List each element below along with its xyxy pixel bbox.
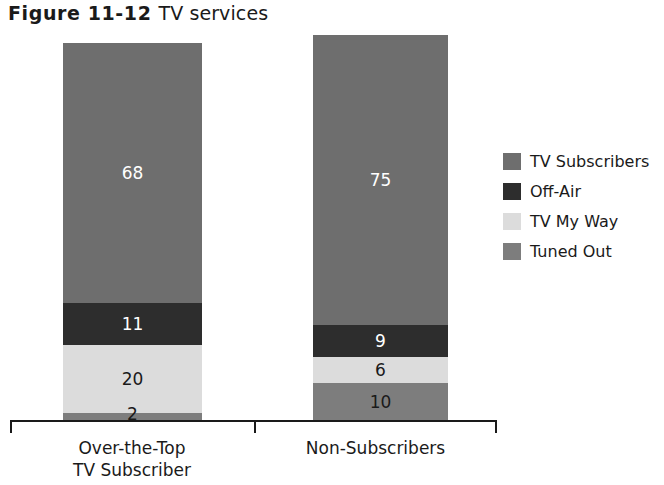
x-axis-label-line-2: TV Subscriber [10, 459, 254, 481]
bar-segment-tv-my-way[interactable]: 20 [63, 345, 202, 413]
bar-over-the-top-tv-subscriber[interactable]: 68 11 20 2 [63, 43, 202, 421]
bar-segment-off-air[interactable]: 9 [313, 325, 448, 357]
x-axis-tick-middle [254, 420, 256, 433]
bar-segment-tv-subscribers[interactable]: 75 [313, 35, 448, 325]
x-axis-label-line-1: Non-Subscribers [254, 437, 497, 459]
bar-value-off-air: 11 [63, 316, 202, 333]
legend-label: TV Subscribers [530, 152, 649, 171]
bar-value-tuned-out: 10 [313, 394, 448, 411]
legend-label: Off-Air [530, 182, 581, 201]
x-axis-label-non-subscribers: Non-Subscribers [254, 437, 497, 459]
legend-item-off-air[interactable]: Off-Air [503, 176, 649, 206]
bar-value-tv-my-way: 20 [63, 371, 202, 388]
legend-swatch-icon [503, 213, 521, 230]
bar-value-tv-subscribers: 75 [313, 172, 448, 189]
bar-segment-off-air[interactable]: 11 [63, 303, 202, 345]
bar-value-off-air: 9 [313, 333, 448, 350]
stacked-bar-chart: 68 11 20 2 75 9 6 10 Over-the [0, 0, 664, 485]
x-axis [10, 420, 497, 421]
legend-label: TV My Way [530, 212, 618, 231]
bar-segment-tv-my-way[interactable]: 6 [313, 357, 448, 383]
bar-value-tv-subscribers: 68 [63, 165, 202, 182]
legend-item-tv-my-way[interactable]: TV My Way [503, 206, 649, 236]
bar-segment-tuned-out[interactable]: 10 [313, 383, 448, 421]
legend-item-tuned-out[interactable]: Tuned Out [503, 236, 649, 266]
bar-segment-tv-subscribers[interactable]: 68 [63, 43, 202, 303]
legend-swatch-icon [503, 243, 521, 260]
legend-item-tv-subscribers[interactable]: TV Subscribers [503, 146, 649, 176]
x-axis-tick-right [495, 420, 497, 433]
legend-swatch-icon [503, 183, 521, 200]
bar-non-subscribers[interactable]: 75 9 6 10 [313, 35, 448, 421]
x-axis-tick-left [10, 420, 12, 433]
x-axis-label-line-1: Over-the-Top [10, 437, 254, 459]
legend-label: Tuned Out [530, 242, 612, 261]
chart-legend: TV Subscribers Off-Air TV My Way Tuned O… [503, 146, 649, 266]
x-axis-label-over-the-top-tv-subscriber: Over-the-Top TV Subscriber [10, 437, 254, 481]
bar-value-tv-my-way: 6 [313, 362, 448, 379]
legend-swatch-icon [503, 153, 521, 170]
